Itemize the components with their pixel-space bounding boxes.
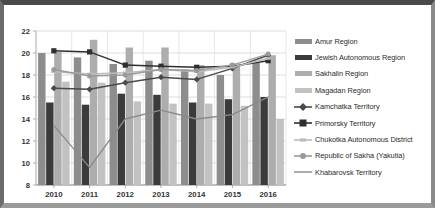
legend-key-bar-icon — [294, 52, 312, 64]
bar — [153, 95, 160, 185]
legend-item-label: Jewish Autonomous Region — [315, 53, 405, 62]
data-point-marker — [87, 74, 92, 79]
legend-item-label: Khabarovsk Territory — [315, 168, 382, 177]
legend-item[interactable]: Amur Region — [294, 33, 431, 49]
legend-item-label: Republic of Sakha (Yakutia) — [315, 151, 405, 160]
legend-item[interactable]: Sakhalin Region — [294, 66, 431, 82]
legend-swatch — [295, 39, 312, 44]
bar — [46, 103, 53, 186]
x-axis-tick-label: 2011 — [81, 190, 99, 199]
y-axis-tick-label: 18 — [22, 71, 30, 80]
plot-area — [36, 31, 286, 185]
legend-swatch — [295, 88, 312, 93]
bar — [126, 48, 133, 186]
y-axis-tick-label: 12 — [22, 137, 30, 146]
x-axis-tick-label: 2016 — [259, 190, 277, 199]
bar — [82, 105, 89, 185]
bar — [217, 75, 224, 185]
data-point-marker — [123, 73, 128, 78]
bar — [205, 104, 212, 185]
legend-item-label: Chukotka Autonomous District — [315, 135, 413, 144]
bar — [118, 94, 125, 185]
screenshot-frame: 8101214161820222010201120122013201420152… — [0, 0, 435, 208]
legend-item-label: Magadan Region — [315, 86, 371, 95]
bar — [252, 63, 259, 185]
x-axis-tick-label: 2013 — [152, 190, 170, 199]
data-point-marker — [51, 48, 56, 53]
legend-item-label: Kamchatka Territory — [315, 102, 380, 111]
legend-key-bar-icon — [294, 84, 312, 96]
bar — [189, 103, 196, 186]
legend-swatch — [295, 71, 312, 76]
x-axis-tick-label: 2012 — [117, 190, 135, 199]
legend-key-line-plain-icon — [294, 166, 312, 178]
x-axis-tick-label: 2014 — [188, 190, 206, 199]
data-point-marker — [51, 67, 56, 72]
legend-key-bar-icon — [294, 35, 312, 47]
bar — [134, 101, 141, 185]
bar — [62, 82, 69, 185]
legend-key-line-dash-icon — [294, 134, 312, 146]
bar — [169, 104, 176, 185]
bar — [98, 83, 105, 185]
bar — [225, 99, 232, 185]
legend-item[interactable]: Jewish Autonomous Region — [294, 49, 431, 65]
bar — [260, 97, 267, 185]
x-axis-tick-label: 2010 — [45, 190, 63, 199]
data-point-marker — [123, 63, 128, 68]
legend-item[interactable]: Chukotka Autonomous District — [294, 131, 431, 147]
chart-container: 8101214161820222010201120122013201420152… — [4, 5, 431, 203]
data-point-marker — [266, 57, 271, 60]
bar — [181, 70, 188, 186]
data-point-marker — [230, 63, 235, 68]
data-point-marker — [266, 52, 271, 57]
data-point-marker — [87, 49, 92, 54]
legend-key-line-diamond-icon — [294, 101, 312, 113]
legend-swatch — [295, 55, 312, 60]
legend-item-label: Sakhalin Region — [315, 69, 368, 78]
bar — [110, 64, 117, 185]
bar — [233, 65, 240, 185]
legend-key-line-circle-icon — [294, 150, 312, 162]
y-axis-tick-label: 14 — [22, 115, 31, 124]
bar — [268, 55, 275, 185]
bar — [74, 57, 81, 185]
bar — [276, 119, 283, 185]
legend-key-bar-icon — [294, 68, 312, 80]
bar — [197, 65, 204, 185]
data-point-marker — [159, 67, 164, 72]
legend-item[interactable]: Khabarovsk Territory — [294, 164, 431, 180]
legend-item-label: Amur Region — [315, 37, 358, 46]
y-axis-tick-label: 22 — [22, 27, 30, 36]
bar — [241, 106, 248, 185]
x-axis-tick-label: 2015 — [224, 190, 242, 199]
bar — [90, 40, 97, 185]
y-axis-tick-label: 20 — [22, 49, 30, 58]
legend-item[interactable]: Magadan Region — [294, 82, 431, 98]
legend-key-line-square-icon — [294, 117, 312, 129]
legend-item[interactable]: Primorsky Territory — [294, 115, 431, 131]
y-axis-tick-label: 16 — [22, 93, 30, 102]
data-point-marker — [194, 68, 199, 73]
bar — [38, 53, 45, 185]
legend-item[interactable]: Kamchatka Territory — [294, 99, 431, 115]
legend-item-label: Primorsky Territory — [315, 119, 376, 128]
legend-item[interactable]: Republic of Sakha (Yakutia) — [294, 148, 431, 164]
chart-legend: Amur RegionJewish Autonomous RegionSakha… — [294, 33, 431, 181]
y-axis-tick-label: 10 — [22, 159, 30, 168]
y-axis-tick-label: 8 — [26, 181, 30, 190]
